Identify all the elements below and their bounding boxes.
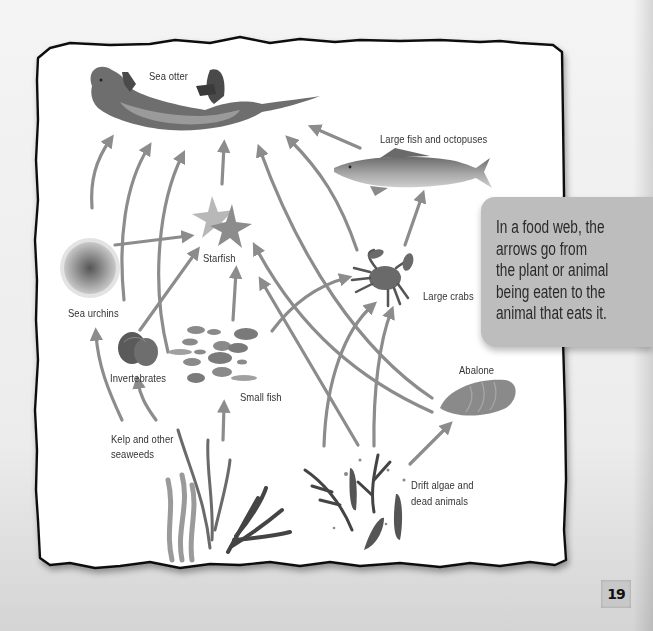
label-kelp-line1: Kelp and other [111,432,173,447]
label-abalone: Abalone [459,363,494,378]
info-callout-box: In a food web, the arrows go from the pl… [481,197,653,347]
info-line: the plant or animal [496,260,652,282]
label-sea-otter: Sea otter [149,69,188,84]
info-line: In a food web, the [496,217,652,239]
label-sea-urchins: Sea urchins [68,306,119,321]
label-invertebrates: Invertebrates [110,371,166,386]
page-number: 19 [601,580,631,608]
label-large-fish: Large fish and octopuses [380,132,487,147]
label-starfish: Starfish [203,251,236,266]
info-line: arrows go from [496,239,652,261]
label-drift-line1: Drift algae and [411,478,474,493]
label-large-crabs: Large crabs [423,289,474,304]
sea-urchin-illustration [60,238,120,298]
label-small-fish: Small fish [240,390,282,405]
info-callout-text: In a food web, the arrows go from the pl… [496,217,652,325]
label-drift-line2: dead animals [411,494,468,509]
arrow-starfish-to-otter [222,146,224,184]
label-kelp-line2: seaweeds [111,447,154,462]
arrow-kelp-to-smallfish [223,406,224,440]
info-line: being eaten to the [496,282,652,304]
info-line: animal that eats it. [496,303,652,325]
